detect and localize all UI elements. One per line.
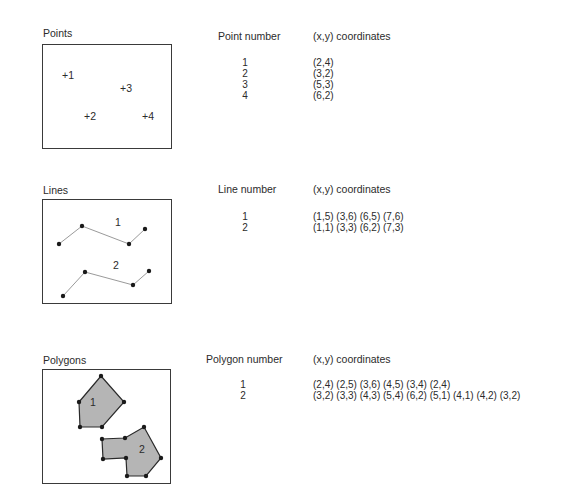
polygon-label-2: 2 xyxy=(139,443,145,455)
polygon-label-1: 1 xyxy=(90,396,96,408)
polygons-header-coords: (x,y) coordinates xyxy=(313,353,391,365)
polygon-2 xyxy=(100,425,163,478)
polygons-header-number: Polygon number xyxy=(206,353,282,365)
polygons-row-2-number: 2 xyxy=(233,390,253,401)
polygon-1 xyxy=(77,374,126,429)
polygons-row-1-coords: (2,4) (2,5) (3,6) (4,5) (3,4) (2,4) xyxy=(313,379,450,390)
polygons-row-2-coords: (3,2) (3,3) (4,3) (5,4) (6,2) (5,1) (4,1… xyxy=(313,390,520,401)
polygons-figure xyxy=(0,0,576,491)
polygons-row-1-number: 1 xyxy=(233,379,253,390)
